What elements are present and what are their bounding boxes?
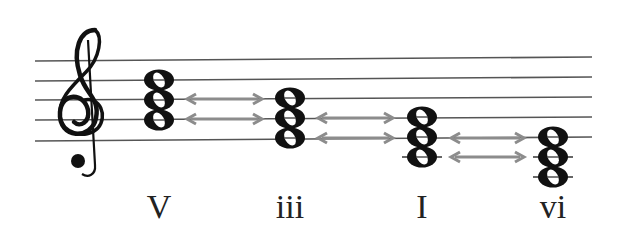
roman-numeral-I: I — [416, 190, 427, 224]
roman-numeral-V: V — [147, 190, 172, 224]
double-arrow-icon — [318, 133, 393, 143]
double-arrow-icon — [451, 133, 524, 143]
voice-leading-arrows — [187, 94, 524, 162]
chord-vi — [533, 127, 573, 188]
staff-line — [35, 97, 592, 100]
treble-clef-icon — [60, 30, 103, 176]
chords — [144, 70, 573, 188]
double-arrow-icon — [318, 113, 393, 123]
roman-numeral-iii: iii — [276, 190, 304, 224]
staff-lines — [35, 57, 592, 141]
double-arrow-icon — [187, 114, 262, 124]
double-arrow-icon — [451, 152, 524, 162]
music-staff — [0, 0, 617, 237]
roman-numeral-vi: vi — [540, 190, 566, 224]
chord-iii — [275, 88, 305, 149]
staff-line — [35, 77, 592, 81]
chord-V — [144, 70, 174, 131]
double-arrow-icon — [187, 94, 262, 104]
staff-line — [35, 57, 592, 61]
staff-line — [35, 117, 592, 120]
chord-I — [402, 107, 442, 168]
